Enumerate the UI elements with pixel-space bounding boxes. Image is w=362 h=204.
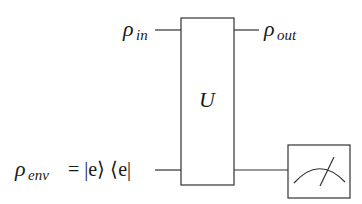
env-state: = |e⟩ ⟨e| — [68, 158, 131, 181]
meter-icon — [288, 145, 350, 198]
rho-env-subscript: env — [28, 167, 49, 183]
rho-out-symbol: ρ — [263, 16, 275, 41]
rho-in-subscript: in — [136, 27, 148, 43]
rho-env-symbol: ρ — [14, 156, 26, 181]
gate-label: U — [199, 87, 217, 112]
rho-in-symbol: ρ — [122, 16, 134, 41]
rho-out-subscript: out — [277, 27, 297, 43]
quantum-circuit-diagram: ρ in U ρ out ρ env = |e⟩ ⟨e| — [0, 0, 362, 204]
